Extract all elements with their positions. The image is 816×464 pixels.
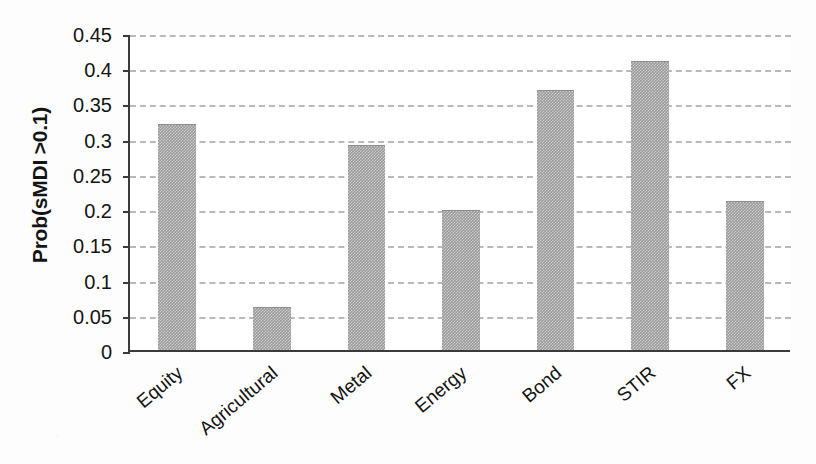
y-axis-tick-label: 0.45 <box>73 25 112 45</box>
x-axis-tick-label: Bond <box>518 362 566 407</box>
y-axis-tick-label: 0.25 <box>73 166 112 186</box>
y-axis-tick-label: 0.05 <box>73 307 112 327</box>
gridline <box>130 105 791 107</box>
y-axis-tick-label: 0.15 <box>73 236 112 256</box>
bar <box>348 145 386 350</box>
y-axis-tick-mark <box>123 70 130 72</box>
y-axis-tick-mark <box>123 246 130 248</box>
bar <box>726 201 764 350</box>
y-axis-tick-label: 0.2 <box>84 201 112 221</box>
y-axis-tick-mark <box>123 105 130 107</box>
x-axis-tick-label: FX <box>722 362 755 394</box>
x-axis-tick-labels: EquityAgriculturalMetalEnergyBondSTIRFX <box>128 352 790 464</box>
x-axis-tick-label: Metal <box>327 362 377 409</box>
bar <box>631 61 669 350</box>
y-axis-tick-mark <box>123 35 130 37</box>
gridline <box>130 141 791 143</box>
y-axis-tick-label: 0.4 <box>84 60 112 80</box>
bar <box>442 210 480 350</box>
gridline <box>130 70 791 72</box>
y-axis-tick-label: 0.1 <box>84 272 112 292</box>
bar <box>158 124 196 350</box>
bar-chart-figure: Prob(sMDI >0.1) 00.050.10.150.20.250.30.… <box>0 0 816 464</box>
plot-area <box>128 35 790 352</box>
y-axis-tick-mark <box>123 141 130 143</box>
bar <box>253 307 291 350</box>
y-axis-tick-label: 0.3 <box>84 131 112 151</box>
y-axis-tick-mark <box>123 176 130 178</box>
x-axis-tick-label: Energy <box>411 362 471 418</box>
y-axis-tick-mark <box>123 211 130 213</box>
x-axis-tick-label: STIR <box>613 362 660 407</box>
y-axis-tick-mark <box>123 317 130 319</box>
y-axis-tick-label: 0 <box>101 342 112 362</box>
x-axis-tick-label: Agricultural <box>195 362 282 440</box>
gridline <box>130 35 791 37</box>
gridline <box>130 176 791 178</box>
x-axis-tick-label: Equity <box>133 362 188 413</box>
y-axis-tick-labels: 00.050.10.150.20.250.30.350.40.45 <box>0 35 120 352</box>
bar <box>537 90 575 350</box>
y-axis-tick-label: 0.35 <box>73 95 112 115</box>
y-axis-tick-mark <box>123 282 130 284</box>
